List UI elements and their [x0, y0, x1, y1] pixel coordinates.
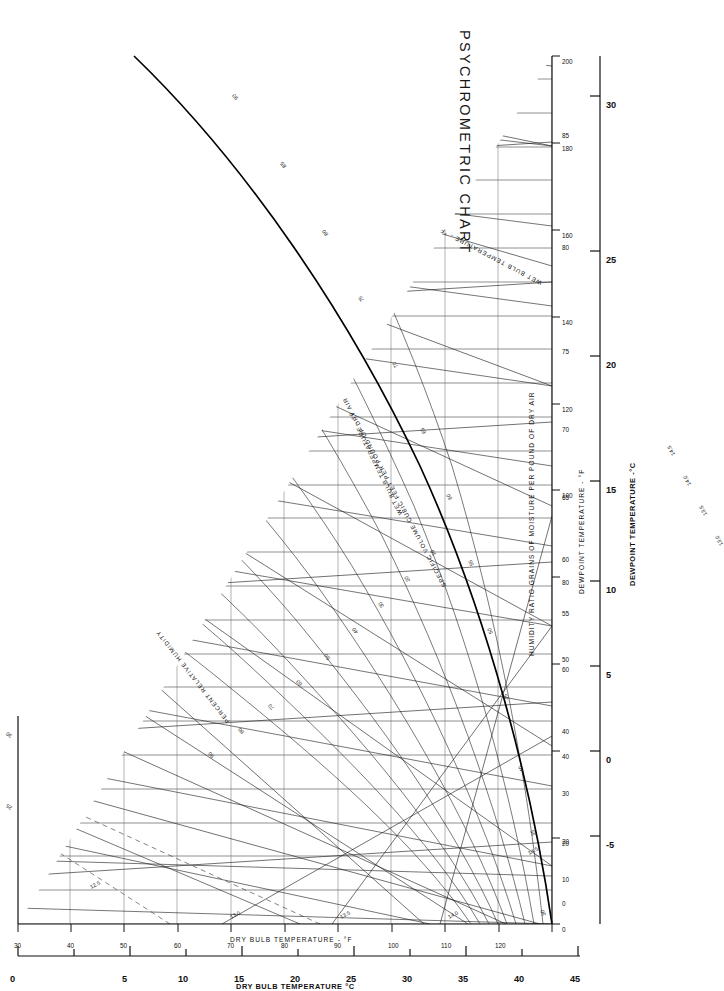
enthalpy-lines — [18, 786, 320, 924]
chart-frame — [18, 56, 552, 924]
dry-bulb-fahrenheit-axis-label: DRY BULB TEMPERATURE - °F — [230, 936, 353, 943]
saturation-curve — [134, 56, 552, 924]
humidity-ratio-ticks — [552, 56, 560, 924]
humidity-ratio-lines — [18, 56, 552, 924]
dry-bulb-lines — [18, 79, 552, 924]
dewpoint-fahrenheit-axis-label: DEWPOINT TEMPERATURE - °F — [578, 469, 585, 594]
dewpoint-celsius-axis-label: DEWPOINT TEMPERATURE -°C — [628, 462, 637, 586]
wet-bulb-constant-lines — [18, 36, 552, 924]
dry-bulb-fahrenheit-ticks — [18, 924, 552, 932]
relative-humidity-curves — [18, 56, 543, 924]
dewpoint-celsius-axis — [590, 56, 600, 924]
dry-bulb-celsius-axis-label: DRY BULB TEMPERATURE °C — [236, 982, 355, 991]
wet-bulb-lines — [18, 8, 552, 924]
humidity-ratio-axis-label: HUMIDITY RATIO GRAINS OF MOISTURE PER PO… — [528, 391, 535, 656]
